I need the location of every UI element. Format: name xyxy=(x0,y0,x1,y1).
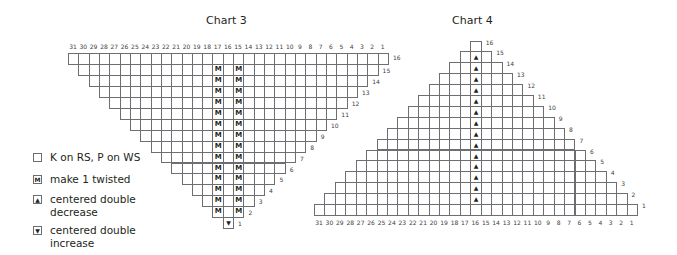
make-one-icon: M xyxy=(234,153,243,163)
column-number: 30 xyxy=(324,219,334,226)
make-one-icon: M xyxy=(234,65,243,75)
column-number: 30 xyxy=(78,43,88,50)
column-number: 15 xyxy=(233,43,243,50)
column-number: 13 xyxy=(254,43,264,50)
row-number: 16 xyxy=(486,39,494,46)
chart4-title: Chart 4 xyxy=(452,14,493,27)
row-number: 11 xyxy=(341,111,349,118)
column-number: 4 xyxy=(347,43,357,50)
chart-cell: M xyxy=(233,206,244,218)
column-number: 28 xyxy=(345,219,355,226)
legend-item-increase: ▼ centered double increase xyxy=(33,224,160,250)
column-number: 24 xyxy=(140,43,150,50)
row-number: 10 xyxy=(548,104,556,111)
chart-cell xyxy=(357,75,368,87)
column-number: 3 xyxy=(606,219,616,226)
column-number: 20 xyxy=(182,43,192,50)
column-number: 21 xyxy=(171,43,181,50)
column-number: 3 xyxy=(357,43,367,50)
chart-cell xyxy=(543,117,554,129)
row-number: 13 xyxy=(362,89,370,96)
decrease-arrow-icon: ▲ xyxy=(471,183,480,193)
legend-label: centered double increase xyxy=(50,224,160,250)
legend-item-make1: M make 1 twisted xyxy=(33,173,160,186)
column-number: 14 xyxy=(243,43,253,50)
column-number: 11 xyxy=(522,219,532,226)
empty-square-icon xyxy=(33,153,42,162)
decrease-arrow-icon: ▲ xyxy=(471,74,480,84)
column-number: 8 xyxy=(305,43,315,50)
make-one-icon: M xyxy=(234,120,243,130)
decrease-arrow-icon: ▲ xyxy=(471,63,480,73)
column-number: 9 xyxy=(543,219,553,226)
row-number: 9 xyxy=(321,133,325,140)
row-number: 7 xyxy=(580,137,584,144)
row-number: 8 xyxy=(310,144,314,151)
chart-cell xyxy=(627,204,638,216)
legend-label: K on RS, P on WS xyxy=(50,151,160,164)
column-number: 10 xyxy=(285,43,295,50)
row-number: 2 xyxy=(632,191,636,198)
chart-cell xyxy=(575,150,586,162)
column-number: 17 xyxy=(460,219,470,226)
make-one-icon: M xyxy=(234,196,243,206)
row-number: 4 xyxy=(269,187,273,194)
chart-cell xyxy=(243,195,254,207)
row-number: 7 xyxy=(300,155,304,162)
make-one-icon: M xyxy=(213,131,222,141)
row-number: 12 xyxy=(527,82,535,89)
chart-cell xyxy=(491,62,502,74)
column-number: 21 xyxy=(418,219,428,226)
make-one-icon: M xyxy=(213,109,222,119)
make-one-icon: M xyxy=(213,76,222,86)
column-number: 10 xyxy=(533,219,543,226)
column-number: 18 xyxy=(449,219,459,226)
make-one-icon: M xyxy=(234,164,243,174)
chart-cell xyxy=(564,139,575,151)
decrease-arrow-icon: ▲ xyxy=(471,52,480,62)
column-number: 17 xyxy=(212,43,222,50)
chart-cell xyxy=(481,51,492,63)
chart-cell xyxy=(295,141,306,153)
column-number: 23 xyxy=(151,43,161,50)
legend-label: make 1 twisted xyxy=(50,173,160,186)
row-number: 10 xyxy=(331,122,339,129)
column-number: 31 xyxy=(68,43,78,50)
column-number: 12 xyxy=(264,43,274,50)
column-number: 29 xyxy=(335,219,345,226)
chart-cell xyxy=(606,182,617,194)
decrease-arrow-icon: ▲ xyxy=(471,194,480,204)
column-number: 12 xyxy=(512,219,522,226)
chart-cell xyxy=(285,152,296,164)
chart-cell xyxy=(326,108,337,120)
row-number: 5 xyxy=(600,158,604,165)
column-number: 14 xyxy=(491,219,501,226)
column-number: 1 xyxy=(627,219,637,226)
row-number: 2 xyxy=(248,209,252,216)
row-number: 11 xyxy=(538,93,546,100)
column-number: 19 xyxy=(439,219,449,226)
row-number: 3 xyxy=(621,180,625,187)
column-number: 31 xyxy=(314,219,324,226)
row-number: 16 xyxy=(393,54,401,61)
row-number: 6 xyxy=(290,166,294,173)
column-number: 5 xyxy=(336,43,346,50)
decrease-arrow-icon: ▲ xyxy=(471,129,480,139)
chart-cell xyxy=(367,64,378,76)
row-number: 14 xyxy=(372,78,380,85)
column-number: 27 xyxy=(109,43,119,50)
decrease-arrow-icon: ▲ xyxy=(471,161,480,171)
make-one-icon: M xyxy=(213,65,222,75)
make-one-icon: M xyxy=(234,131,243,141)
column-number: 2 xyxy=(616,219,626,226)
chart-cell xyxy=(305,130,316,142)
chart-cell xyxy=(585,160,596,172)
chart-cell: ▼ xyxy=(223,217,234,229)
make-one-icon: M xyxy=(213,153,222,163)
chart-cell xyxy=(502,73,513,85)
decrease-arrow-icon: ▲ xyxy=(471,96,480,106)
make-one-icon: M xyxy=(234,98,243,108)
legend-item-decrease: ▲ centered double decrease xyxy=(33,193,160,219)
column-number: 4 xyxy=(595,219,605,226)
make-one-icon: M xyxy=(213,174,222,184)
